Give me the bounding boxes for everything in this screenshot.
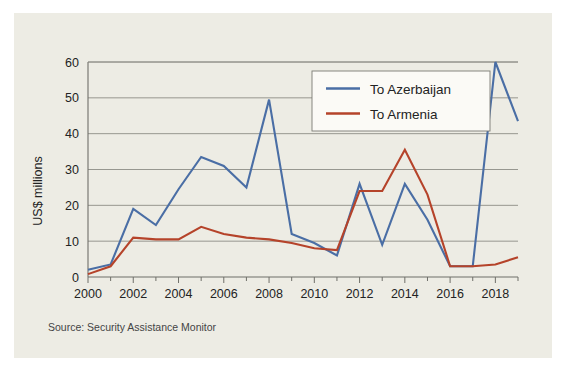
- y-axis-title: US$ millions: [31, 156, 45, 225]
- plot-wrapper: 0102030405060 20002002200420062008201020…: [14, 13, 552, 358]
- x-tick-label: 2010: [300, 287, 328, 301]
- y-tick-label: 40: [65, 127, 79, 141]
- chart-card: 0102030405060 20002002200420062008201020…: [14, 13, 552, 358]
- x-tick-label: 2012: [346, 287, 374, 301]
- legend-label: To Armenia: [370, 107, 438, 122]
- x-tick-label: 2004: [165, 287, 193, 301]
- ytick-label-group: 0102030405060: [65, 56, 79, 285]
- xtick-mark-group: [88, 277, 518, 283]
- y-tick-label: 60: [65, 56, 79, 70]
- x-tick-label: 2006: [210, 287, 238, 301]
- chart-figure: 0102030405060 20002002200420062008201020…: [0, 0, 566, 371]
- legend-box: [312, 71, 490, 131]
- y-tick-label: 50: [65, 91, 79, 105]
- x-tick-label: 2018: [481, 287, 509, 301]
- line-chart-svg: 0102030405060 20002002200420062008201020…: [14, 13, 552, 358]
- legend-label: To Azerbaijan: [370, 82, 451, 97]
- series-line-to-armenia: [88, 150, 518, 274]
- x-tick-label: 2016: [436, 287, 464, 301]
- y-tick-label: 10: [65, 235, 79, 249]
- source-note: Source: Security Assistance Monitor: [48, 321, 217, 333]
- x-tick-label: 2008: [255, 287, 283, 301]
- x-tick-label: 2000: [74, 287, 102, 301]
- y-tick-label: 20: [65, 199, 79, 213]
- y-tick-label: 30: [65, 163, 79, 177]
- x-tick-label: 2002: [119, 287, 147, 301]
- x-tick-label: 2014: [391, 287, 419, 301]
- y-tick-label: 0: [72, 271, 79, 285]
- xtick-label-group: 2000200220042006200820102012201420162018: [74, 287, 509, 301]
- legend: To AzerbaijanTo Armenia: [312, 71, 490, 131]
